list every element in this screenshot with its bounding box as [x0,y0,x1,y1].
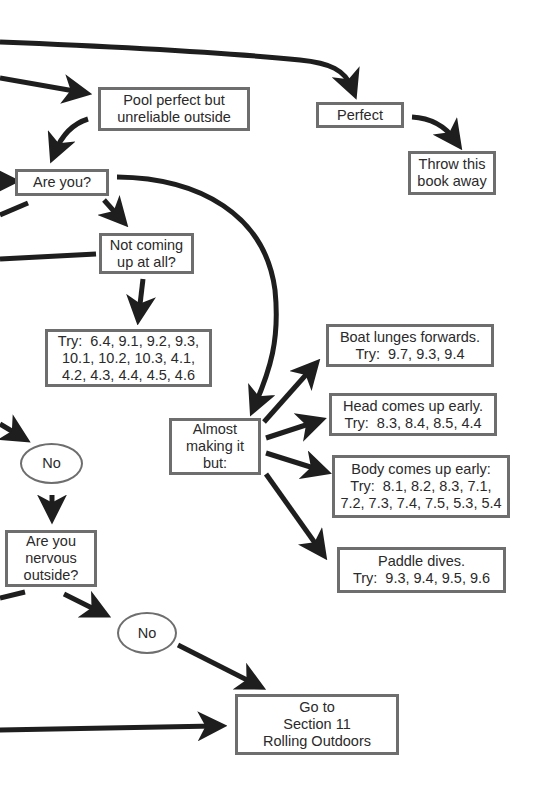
try-values: 8.3, 8.4, 8.5, 4.4 [377,415,482,431]
node-text: up at all? [117,254,176,271]
arrow-almost-to-paddle [266,474,320,550]
node-text: Go to [299,699,334,716]
try-label: Try: [353,570,377,586]
node-text: Try:8.3, 8.4, 8.5, 4.4 [344,415,481,432]
node-text: Throw this [419,156,486,173]
node-text: 4.2, 4.3, 4.4, 4.5, 4.6 [62,367,195,384]
try-label: Try: [58,333,82,349]
node-pool-perfect: Pool perfect but unreliable outside [98,87,250,131]
try-values: 9.3, 9.4, 9.5, 9.6 [385,570,490,586]
node-text: book away [417,173,486,190]
node-no-1: No [20,443,83,484]
try-values: 9.7, 9.3, 9.4 [388,346,465,362]
node-text: Perfect [337,107,383,124]
arrow-almost-to-head [266,422,315,438]
node-text: Paddle dives. [378,553,465,570]
node-text: Section 11 [283,716,350,733]
arrow-are-you-to-not-coming [104,200,120,218]
arrow-pool-to-are-you [55,119,88,152]
node-body-up: Body comes up early: Try:8.1, 8.2, 8.3, … [332,455,510,518]
arrow-to-pool-perfect [0,78,80,92]
node-text: No [138,625,157,642]
arrow-nervous-left [0,592,25,598]
node-try-not-coming-up: Try:6.4, 9.1, 9.2, 9.3, 10.1, 10.2, 10.3… [45,329,212,387]
node-throw-away: Throw this book away [408,151,496,195]
node-no-2: No [117,612,177,654]
node-text: making it [186,438,244,455]
node-head-up: Head comes up early. Try:8.3, 8.4, 8.5, … [329,393,497,436]
node-text: Rolling Outdoors [263,733,371,750]
node-paddle-dives: Paddle dives. Try:9.3, 9.4, 9.5, 9.6 [337,547,506,593]
arrow-almost-to-boat [264,368,312,422]
line-left-to-not-coming [0,254,96,259]
node-text: Try:9.7, 9.3, 9.4 [355,346,464,363]
node-text: Pool perfect but [123,92,225,109]
node-perfect: Perfect [316,102,404,128]
node-go-to-section: Go to Section 11 Rolling Outdoors [235,694,399,755]
node-text: 7.2, 7.3, 7.4, 7.5, 5.3, 5.4 [340,495,501,512]
arrow-perfect-to-throw [412,117,455,140]
node-text: Not coming [110,237,183,254]
arrow-nervous-to-no [64,594,100,612]
node-are-you: Are you? [15,169,109,196]
node-text: Try:6.4, 9.1, 9.2, 9.3, [58,333,199,350]
node-text: Are you? [33,174,91,191]
arrow-bottom-to-section [0,726,215,730]
flowchart-canvas: Pool perfect but unreliable outside Perf… [0,0,536,793]
node-text: Try:9.3, 9.4, 9.5, 9.6 [353,570,490,587]
node-text: Boat lunges forwards. [340,329,480,346]
try-label: Try: [350,478,374,494]
try-values: 8.1, 8.2, 8.3, 7.1, [383,478,492,494]
node-nervous: Are you nervous outside? [5,530,97,587]
node-text: Almost [193,421,237,438]
arrow-to-perfect [0,42,352,88]
arrow-almost-to-body [266,453,320,470]
arrow-no-to-section [178,645,255,684]
node-text: Are you [26,533,76,550]
arrow-not-coming-to-try [139,279,143,313]
node-text: 10.1, 10.2, 10.3, 4.1, [62,350,195,367]
node-boat-lunges: Boat lunges forwards. Try:9.7, 9.3, 9.4 [326,324,494,367]
arrow-to-no-1 [0,424,20,436]
node-text: Body comes up early: [351,461,490,478]
node-text: Head comes up early. [343,398,483,415]
node-text: outside? [24,567,79,584]
arrow-are-you-left [0,203,28,215]
node-text: No [42,455,61,472]
node-text: but: [203,455,227,472]
node-text: Try:8.1, 8.2, 8.3, 7.1, [350,478,491,495]
node-not-coming-up: Not coming up at all? [99,233,194,274]
node-almost: Almost making it but: [169,418,261,475]
try-label: Try: [344,415,368,431]
try-values: 6.4, 9.1, 9.2, 9.3, [90,333,199,349]
node-text: nervous [25,550,77,567]
node-text: unreliable outside [117,109,231,126]
try-label: Try: [355,346,379,362]
